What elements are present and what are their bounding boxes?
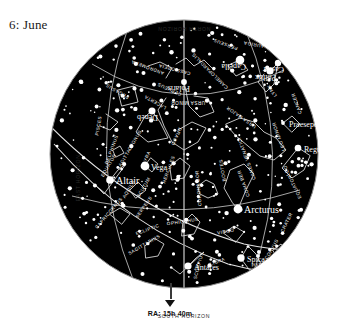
field-star — [131, 45, 134, 48]
field-star — [173, 201, 175, 203]
field-star — [287, 79, 289, 81]
named-star[interactable] — [184, 262, 191, 269]
field-star — [221, 128, 224, 131]
field-star — [263, 83, 265, 85]
field-star — [269, 141, 272, 144]
field-star — [208, 128, 212, 132]
field-star — [290, 160, 294, 164]
field-star — [220, 98, 223, 101]
field-star — [290, 170, 293, 173]
field-star — [218, 211, 221, 214]
field-star — [227, 160, 230, 163]
field-star — [213, 238, 216, 241]
field-star — [269, 102, 271, 104]
field-star — [243, 81, 246, 84]
field-star — [155, 205, 158, 208]
field-star — [157, 144, 159, 146]
field-star — [181, 229, 185, 233]
north-horizon-label: NORTH HORIZON — [158, 26, 211, 32]
field-star — [99, 106, 100, 107]
field-star — [170, 266, 173, 269]
field-star — [297, 164, 301, 168]
field-star — [105, 147, 107, 149]
field-star — [82, 212, 86, 216]
field-star — [188, 234, 192, 238]
field-star — [234, 134, 237, 137]
field-star — [115, 108, 119, 112]
field-star — [309, 162, 313, 166]
field-star — [100, 154, 102, 156]
field-star — [236, 224, 238, 226]
ra-label: RA: 15h 40m — [148, 310, 193, 317]
named-star[interactable] — [237, 254, 244, 261]
star-chart-page: 6: June — [0, 0, 341, 331]
field-star — [223, 217, 225, 219]
field-star — [210, 31, 214, 35]
field-star — [180, 42, 182, 44]
named-star[interactable] — [234, 205, 243, 214]
field-star — [94, 236, 97, 239]
field-star — [113, 58, 115, 60]
meridian-tick — [170, 283, 172, 299]
field-star — [279, 222, 282, 225]
field-star — [155, 195, 157, 197]
field-star — [229, 150, 231, 152]
field-star — [177, 119, 179, 121]
field-star — [213, 136, 217, 140]
field-star — [237, 90, 241, 94]
star-label: Deneb — [137, 113, 158, 122]
field-star — [282, 108, 285, 111]
field-star — [301, 160, 304, 163]
field-star — [279, 183, 282, 186]
named-star[interactable] — [106, 176, 114, 184]
field-star — [120, 232, 122, 234]
field-star — [214, 163, 216, 165]
field-star — [243, 231, 245, 233]
field-star — [195, 107, 198, 110]
field-star — [63, 109, 65, 111]
constellation-label: HYDRA — [251, 261, 270, 268]
field-star — [169, 50, 173, 54]
named-star[interactable] — [281, 121, 285, 125]
field-star — [159, 98, 163, 102]
field-star — [187, 270, 191, 274]
field-star — [263, 59, 266, 62]
field-star — [234, 34, 236, 36]
named-star[interactable] — [295, 145, 302, 152]
sky-map[interactable]: PolarisVegaDenebAltairArcturusSpicaAntar… — [48, 18, 320, 290]
field-star — [141, 181, 142, 182]
field-star — [168, 141, 171, 144]
south-arrow-icon — [165, 300, 175, 307]
field-star — [79, 216, 81, 218]
field-star — [102, 76, 104, 78]
field-star — [228, 117, 230, 119]
field-star — [188, 276, 190, 278]
field-star — [242, 75, 245, 78]
field-star — [190, 128, 192, 130]
field-star — [158, 185, 162, 189]
field-star — [175, 106, 178, 109]
field-star — [73, 139, 75, 141]
field-star — [253, 113, 255, 115]
field-star — [177, 177, 181, 181]
field-star — [253, 118, 257, 122]
field-star — [297, 157, 301, 161]
field-star — [216, 121, 218, 123]
field-star — [266, 96, 269, 99]
field-star — [147, 130, 149, 132]
field-star — [304, 160, 308, 164]
field-star — [208, 272, 211, 275]
sky-svg: PolarisVegaDenebAltairArcturusSpicaAntar… — [48, 18, 320, 290]
field-star — [168, 45, 170, 47]
field-star — [194, 92, 197, 95]
field-star — [265, 123, 266, 124]
field-star — [64, 206, 67, 209]
field-star — [114, 44, 118, 48]
constellation-label: GEMINI — [285, 50, 305, 58]
field-star — [294, 171, 297, 174]
field-star — [229, 264, 231, 266]
constellation-label: URSA MINOR — [171, 100, 205, 105]
field-star — [306, 177, 309, 180]
field-star — [163, 193, 165, 195]
field-star — [242, 265, 244, 267]
